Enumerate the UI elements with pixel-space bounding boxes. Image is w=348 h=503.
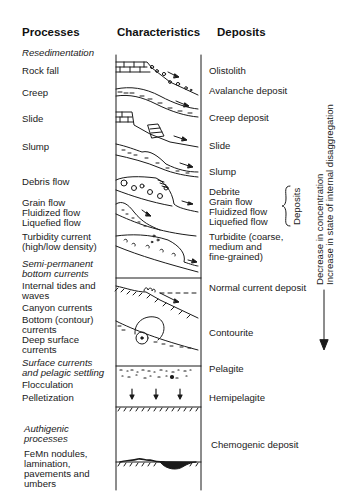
pelagic-settling-sketch bbox=[120, 370, 191, 399]
hemipelagite-floor-sketch bbox=[116, 407, 201, 411]
rock-fall-sketch bbox=[116, 62, 198, 95]
turbidity-current-sketch bbox=[116, 235, 198, 272]
contour-current-sketch bbox=[116, 317, 198, 350]
characteristics-drawing bbox=[0, 0, 348, 503]
deposits-brace bbox=[282, 186, 290, 226]
trend-arrow bbox=[320, 290, 328, 350]
debris-flow-sketch bbox=[116, 177, 198, 212]
slide-sketch bbox=[116, 112, 198, 147]
creep-sketch bbox=[116, 88, 198, 117]
internal-tides-sketch bbox=[115, 286, 198, 318]
slump-sketch bbox=[116, 144, 198, 177]
grain-flow-sketch bbox=[116, 202, 196, 236]
chemogenic-sketch bbox=[116, 459, 201, 469]
